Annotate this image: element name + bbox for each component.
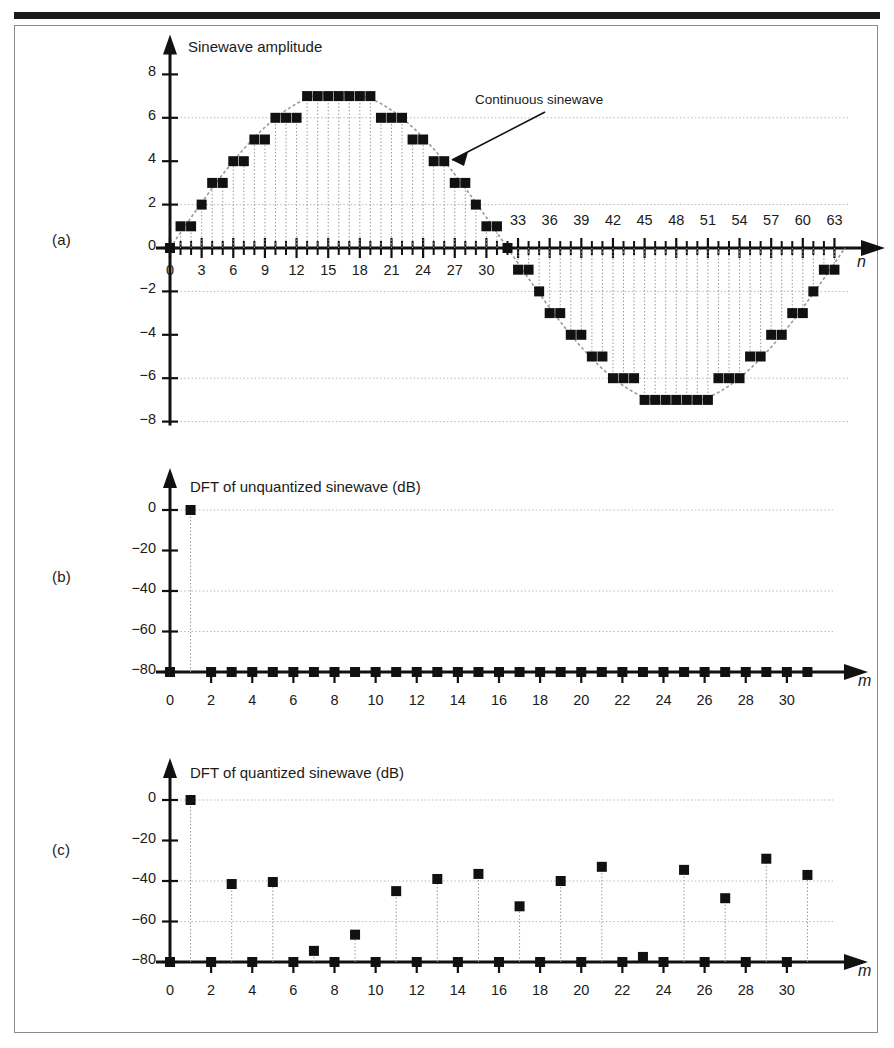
panel-c-xtick-0: 0: [154, 982, 186, 998]
panel-b-ytick-20: −20: [110, 540, 156, 556]
panel-b-xtick-8: 8: [319, 692, 351, 708]
panel-a-ytick-6: 6: [114, 107, 156, 123]
panel-a-xtick-51: 51: [692, 212, 724, 228]
panel-b-xtick-2: 2: [195, 692, 227, 708]
panel-b-xtick-22: 22: [606, 692, 638, 708]
panel-a-ytick-4: 4: [114, 150, 156, 166]
panel-b-xtick-4: 4: [236, 692, 268, 708]
panel-a-xtick-6: 6: [217, 262, 249, 278]
panel-c-xtick-20: 20: [565, 982, 597, 998]
panel-a-sinewave: (a) Sinewave amplitude n Continuous sine…: [0, 0, 894, 450]
panel-a-ytick-2: 2: [114, 194, 156, 210]
panel-c-xtick-6: 6: [277, 982, 309, 998]
panel-a-xtick-21: 21: [375, 262, 407, 278]
panel-b-xtick-16: 16: [483, 692, 515, 708]
panel-c-xtick-30: 30: [771, 982, 803, 998]
panel-a-xtick-30: 30: [470, 262, 502, 278]
panel-c-xtick-14: 14: [442, 982, 474, 998]
panel-c-ytick-20: −20: [110, 830, 156, 846]
panel-b-ytick-0: 0: [110, 499, 156, 515]
panel-a-xtick-39: 39: [565, 212, 597, 228]
panel-b-xtick-10: 10: [360, 692, 392, 708]
panel-b-xtick-30: 30: [771, 692, 803, 708]
panel-c-ytick-60: −60: [110, 911, 156, 927]
panel-c-xtick-2: 2: [195, 982, 227, 998]
panel-a-xtick-48: 48: [660, 212, 692, 228]
panel-b-xtick-6: 6: [277, 692, 309, 708]
panel-c-ytick-80: −80: [110, 951, 156, 967]
panel-a-xtick-24: 24: [407, 262, 439, 278]
panel-c-xtick-10: 10: [360, 982, 392, 998]
panel-c-dft-quantized: (c) DFT of quantized sinewave (dB) m 0−2…: [0, 740, 894, 1040]
panel-a-xtick-54: 54: [724, 212, 756, 228]
panel-b-xtick-28: 28: [730, 692, 762, 708]
panel-b-xtick-18: 18: [524, 692, 556, 708]
panel-b-ytick-80: −80: [110, 661, 156, 677]
panel-c-xtick-18: 18: [524, 982, 556, 998]
panel-a-xtick-36: 36: [534, 212, 566, 228]
panel-a-xtick-3: 3: [186, 262, 218, 278]
panel-a-xtick-9: 9: [249, 262, 281, 278]
panel-a-xtick-45: 45: [629, 212, 661, 228]
panel-a-ytick--4: −4: [114, 324, 156, 340]
panel-c-xtick-8: 8: [319, 982, 351, 998]
panel-b-ytick-60: −60: [110, 621, 156, 637]
panel-a-ytick--8: −8: [114, 411, 156, 427]
panel-b-xtick-12: 12: [401, 692, 433, 708]
panel-c-xtick-4: 4: [236, 982, 268, 998]
panel-b-xtick-0: 0: [154, 692, 186, 708]
panel-b-xtick-20: 20: [565, 692, 597, 708]
panel-c-xtick-22: 22: [606, 982, 638, 998]
panel-a-xtick-63: 63: [818, 212, 850, 228]
panel-c-xtick-24: 24: [648, 982, 680, 998]
panel-b-xtick-24: 24: [648, 692, 680, 708]
panel-a-xtick-57: 57: [755, 212, 787, 228]
figure-page: (a) Sinewave amplitude n Continuous sine…: [0, 0, 894, 1048]
panel-c-xtick-12: 12: [401, 982, 433, 998]
panel-a-xtick-33: 33: [502, 212, 534, 228]
panel-c-xtick-28: 28: [730, 982, 762, 998]
panel-a-ytick--6: −6: [114, 367, 156, 383]
panel-c-ytick-0: 0: [110, 789, 156, 805]
panel-a-xtick-27: 27: [439, 262, 471, 278]
panel-a-xtick-60: 60: [787, 212, 819, 228]
panel-b-dft-unquantized: (b) DFT of unquantized sinewave (dB) m 0…: [0, 450, 894, 740]
panel-a-ytick-0: 0: [114, 237, 156, 253]
panel-c-xtick-26: 26: [689, 982, 721, 998]
panel-c-ytick-40: −40: [110, 870, 156, 886]
panel-a-ytick--2: −2: [114, 280, 156, 296]
panel-a-xtick-42: 42: [597, 212, 629, 228]
panel-a-ytick-8: 8: [114, 63, 156, 79]
panel-a-xtick-12: 12: [281, 262, 313, 278]
panel-b-xtick-14: 14: [442, 692, 474, 708]
panel-b-xtick-26: 26: [689, 692, 721, 708]
panel-a-xtick-18: 18: [344, 262, 376, 278]
panel-a-xtick-0: 0: [154, 262, 186, 278]
panel-b-ytick-40: −40: [110, 580, 156, 596]
panel-a-xtick-15: 15: [312, 262, 344, 278]
panel-c-xtick-16: 16: [483, 982, 515, 998]
